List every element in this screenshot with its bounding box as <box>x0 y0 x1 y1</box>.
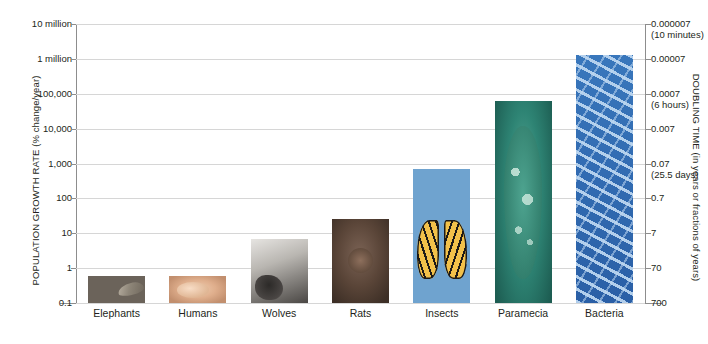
y-tick-label-right: 0.07(25.5 days) <box>651 158 699 180</box>
gridline <box>76 24 645 25</box>
gridline <box>76 303 645 304</box>
y-tick-mark-right <box>646 164 651 165</box>
x-axis-label-paramecia: Paramecia <box>482 307 563 319</box>
y-tick-label-right: 0.0007(6 hours) <box>651 88 689 110</box>
human-baby-photo <box>169 276 226 303</box>
y-tick-label-left: 10,000 <box>0 123 72 134</box>
y-tick-mark-left <box>71 198 76 199</box>
x-axis-label-insects: Insects <box>401 307 482 319</box>
bar-insects <box>413 169 470 303</box>
y-tick-label-left: 100,000 <box>0 88 72 99</box>
bacteria-photo <box>576 55 633 303</box>
y-tick-mark-right <box>646 268 651 269</box>
y-tick-mark-left <box>71 268 76 269</box>
y-tick-value-right: 0.7 <box>651 192 664 203</box>
y-tick-sublabel-right: (6 hours) <box>651 99 689 110</box>
y-tick-label-right: 0.00007 <box>651 53 685 64</box>
y-tick-value-right: 700 <box>651 297 667 308</box>
y-tick-mark-left <box>71 59 76 60</box>
y-tick-mark-left <box>71 94 76 95</box>
y-tick-value-right: 0.000007 <box>651 18 704 29</box>
y-tick-label-left: 1,000 <box>0 158 72 169</box>
y-tick-label-left: 1 <box>0 262 72 273</box>
bar-rats <box>332 219 389 303</box>
y-tick-value-right: 70 <box>651 262 662 273</box>
bar-paramecia <box>495 101 552 303</box>
y-tick-mark-left <box>71 303 76 304</box>
y-tick-label-left: 0.1 <box>0 297 72 308</box>
x-axis-label-bacteria: Bacteria <box>564 307 645 319</box>
gridline <box>76 59 645 60</box>
bar-elephants <box>88 276 145 303</box>
y-tick-mark-right <box>646 94 651 95</box>
x-axis-label-wolves: Wolves <box>239 307 320 319</box>
y-tick-value-right: 0.0007 <box>651 88 689 99</box>
y-tick-mark-right <box>646 59 651 60</box>
population-growth-rate-chart: POPULATION GROWTH RATE (% change/year) D… <box>0 0 708 344</box>
wolf-photo <box>251 239 308 303</box>
bar-bacteria <box>576 55 633 303</box>
y-tick-mark-right <box>646 24 651 25</box>
y-tick-sublabel-right: (10 minutes) <box>651 29 704 40</box>
y-tick-mark-left <box>71 129 76 130</box>
y-tick-sublabel-right: (25.5 days) <box>651 169 699 180</box>
gridline <box>76 198 645 199</box>
bar-humans <box>169 276 226 303</box>
y-tick-label-left: 1 million <box>0 53 72 64</box>
y-tick-label-right: 7 <box>651 227 656 238</box>
y-tick-value-right: 0.00007 <box>651 53 685 64</box>
y-tick-mark-right <box>646 198 651 199</box>
y-tick-mark-right <box>646 129 651 130</box>
x-axis-label-humans: Humans <box>157 307 238 319</box>
y-tick-label-right: 0.000007(10 minutes) <box>651 18 704 40</box>
y-tick-mark-left <box>71 164 76 165</box>
y-tick-value-right: 7 <box>651 227 656 238</box>
gridline <box>76 164 645 165</box>
y-tick-mark-left <box>71 24 76 25</box>
y-tick-label-left: 10 <box>0 227 72 238</box>
rat-photo <box>332 219 389 303</box>
elephant-photo <box>88 276 145 303</box>
y-tick-label-right: 0.007 <box>651 123 675 134</box>
y-tick-value-right: 0.07 <box>651 158 699 169</box>
y-tick-label-right: 0.7 <box>651 192 664 203</box>
y-tick-mark-right <box>646 233 651 234</box>
y-tick-value-right: 0.007 <box>651 123 675 134</box>
gridline <box>76 129 645 130</box>
y-tick-mark-left <box>71 233 76 234</box>
y-tick-label-left: 100 <box>0 192 72 203</box>
y-tick-label-left: 10 million <box>0 18 72 29</box>
bar-wolves <box>251 239 308 303</box>
y-tick-mark-right <box>646 303 651 304</box>
y-tick-label-right: 700 <box>651 297 667 308</box>
x-axis-label-elephants: Elephants <box>76 307 157 319</box>
butterfly-photo <box>413 169 470 303</box>
x-axis-label-rats: Rats <box>320 307 401 319</box>
paramecium-photo <box>495 101 552 303</box>
y-tick-label-right: 70 <box>651 262 662 273</box>
gridline <box>76 94 645 95</box>
